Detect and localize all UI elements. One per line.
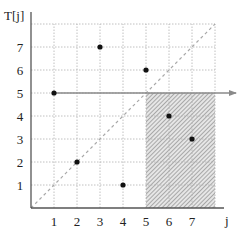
hatched-area [146,93,215,208]
y-tick-label: 5 [17,86,24,101]
x-axis-label: j [224,213,229,228]
data-point [74,159,79,164]
y-tick-label: 1 [17,178,24,193]
diagram-canvas: 12345671234567 T[j] j [0,0,247,236]
x-tick-label: 4 [120,214,127,229]
y-tick-label: 4 [17,109,24,124]
x-tick-label: 1 [51,214,58,229]
data-point [189,136,194,141]
y-tick-label: 2 [17,155,24,170]
data-point [143,67,148,72]
data-point [97,44,102,49]
data-point [120,182,125,187]
x-tick-label: 6 [166,214,173,229]
y-tick-label: 3 [17,132,24,147]
y-tick-label: 6 [17,63,24,78]
y-tick-label: 7 [17,40,24,55]
x-tick-label: 7 [189,214,196,229]
data-point [51,90,56,95]
x-tick-label: 5 [143,214,150,229]
y-axis-label: T[j] [4,8,24,23]
x-tick-label: 3 [97,214,104,229]
data-point [166,113,171,118]
shaded-region [146,93,215,208]
x-tick-label: 2 [74,214,81,229]
